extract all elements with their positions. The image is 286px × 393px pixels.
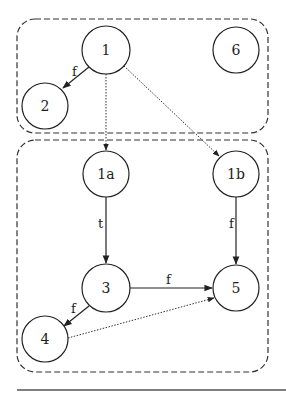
edge-label-3-5: f [166,272,172,287]
edge-label-1a-3: t [98,216,104,231]
node-1a-label: 1a [97,166,114,182]
node-1a: 1a [83,151,129,197]
edge-3-to-4 [64,306,89,326]
node-6-label: 6 [232,42,241,58]
node-2-label: 2 [41,98,50,114]
edge-label-3-4: f [71,301,77,316]
edge-1-to-1b [124,66,219,156]
node-4-label: 4 [41,331,50,347]
node-1-label: 1 [102,42,111,58]
node-1b-label: 1b [227,166,245,182]
edge-label-1b-5: f [229,216,235,231]
node-4: 4 [22,316,68,362]
node-5-label: 5 [232,280,241,296]
node-2: 2 [22,83,68,129]
node-3: 3 [82,264,130,312]
node-1b: 1b [213,151,259,197]
node-3-label: 3 [102,280,111,296]
node-5: 5 [213,265,259,311]
node-1: 1 [82,26,130,74]
node-6: 6 [213,27,259,73]
graph-diagram: f t f f f 1 6 2 1a 1b 3 5 4 [0,0,286,393]
